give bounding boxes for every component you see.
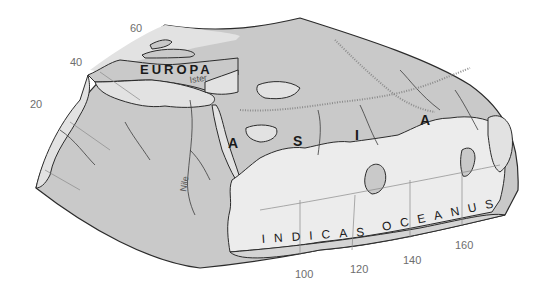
lat-tick-60: 60 xyxy=(130,22,142,34)
ancient-world-map: EUROPA A S I A INDICAS OCEANUS Ister Nil… xyxy=(0,0,544,300)
lon-tick-140: 140 xyxy=(403,254,421,266)
lon-tick-160: 160 xyxy=(455,239,473,251)
label-asia-a2: A xyxy=(420,112,430,128)
lon-tick-120: 120 xyxy=(350,263,368,275)
label-asia-s: S xyxy=(293,133,302,149)
lat-tick-20: 20 xyxy=(30,98,42,110)
lat-tick-40: 40 xyxy=(70,56,82,68)
label-asia-i: I xyxy=(355,127,359,143)
label-asia-a1: A xyxy=(228,135,238,151)
lon-tick-100: 100 xyxy=(295,268,313,280)
